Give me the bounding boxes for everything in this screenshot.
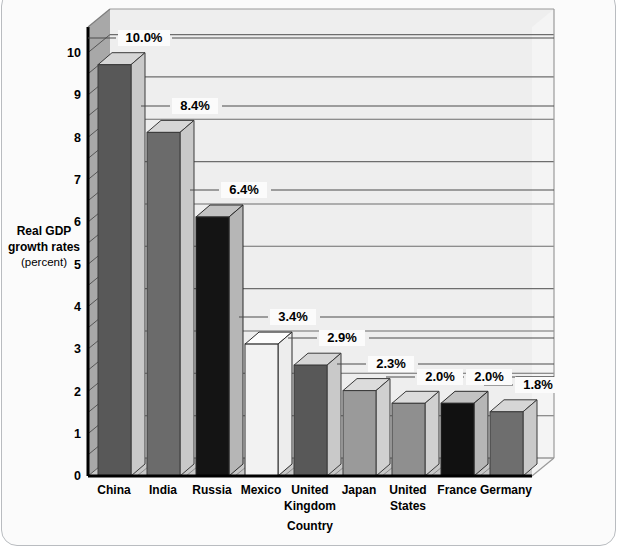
y-axis-title-main: Real GDP growth rates [8, 224, 80, 254]
y-tick-1: 1 [55, 428, 81, 441]
y-tick-9: 9 [55, 89, 81, 102]
bar-japan [343, 379, 390, 476]
x-tick-germany: Germany [463, 483, 549, 499]
data-label-russia: 6.4% [221, 183, 267, 196]
bar-india [147, 120, 194, 476]
data-label-united-states: 2.0% [417, 370, 463, 383]
y-tick-3: 3 [55, 343, 81, 356]
y-tick-8: 8 [55, 132, 81, 145]
y-axis-title-unit: (percent) [21, 256, 67, 268]
bar-russia [196, 205, 243, 476]
bar-mexico [245, 332, 292, 476]
y-tick-2: 2 [55, 386, 81, 399]
gdp-growth-bar-chart: 10.0% 8.4% 6.4% 3.4% 2.9% 2.3% 2.0% 2.0%… [0, 0, 617, 548]
y-tick-10: 10 [48, 47, 81, 60]
data-label-france: 2.0% [466, 370, 512, 383]
bar-germany [490, 400, 537, 476]
bar-united-states [392, 391, 439, 476]
y-tick-7: 7 [55, 174, 81, 187]
bar-france [441, 391, 488, 476]
data-label-germany: 1.8% [515, 378, 561, 391]
y-tick-4: 4 [55, 301, 81, 314]
bar-china [98, 53, 145, 476]
bar-united-kingdom [294, 353, 341, 476]
y-tick-0: 0 [55, 470, 81, 483]
data-label-china: 10.0% [118, 31, 170, 44]
data-label-india: 8.4% [172, 99, 218, 112]
data-label-united-kingdom: 2.9% [319, 331, 365, 344]
x-axis-title: Country [250, 519, 370, 533]
y-axis-title: Real GDP growth rates (percent) [8, 224, 80, 271]
plot-area [0, 0, 617, 548]
data-label-japan: 2.3% [368, 357, 414, 370]
data-label-mexico: 3.4% [270, 310, 316, 323]
